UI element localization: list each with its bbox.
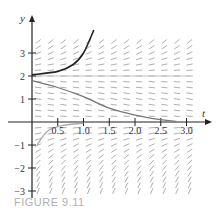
slope-segment [161, 104, 167, 105]
slope-segment [36, 39, 41, 43]
t-axis-arrow-icon [205, 119, 212, 125]
slope-segment [187, 46, 192, 49]
slope-segment [161, 144, 167, 147]
slope-segment [163, 171, 167, 176]
slope-segment [174, 104, 180, 105]
slope-segment [98, 93, 104, 94]
slope-segment [60, 99, 66, 100]
slope-segment [48, 46, 53, 49]
slope-segment [123, 93, 129, 94]
slope-segment [149, 104, 155, 105]
slope-segment [111, 70, 117, 71]
slope-segment [174, 87, 180, 88]
slope-segment [123, 70, 129, 71]
slope-segment [87, 166, 91, 171]
x-tick-label: 2.5 [155, 125, 168, 136]
slope-segment [111, 93, 117, 94]
slope-segment [124, 52, 130, 55]
slope-segment [86, 64, 92, 65]
slope-segment [35, 58, 41, 60]
slope-segment [136, 87, 142, 88]
slope-segment [35, 46, 40, 49]
slope-segment [187, 58, 193, 60]
slope-segment [175, 171, 179, 176]
solution-curve [32, 81, 176, 122]
slope-segment [149, 70, 155, 71]
slope-segment [187, 39, 192, 43]
slope-segment [174, 46, 179, 49]
slope-segment [162, 149, 167, 152]
slope-segment [98, 87, 104, 88]
slope-segment [61, 166, 65, 171]
y-tick-label: 1 [20, 94, 25, 105]
slope-segment [136, 149, 141, 152]
slope-segment [175, 160, 179, 165]
slope-segment [111, 52, 117, 55]
slope-segment [86, 58, 92, 60]
slope-segment [98, 110, 104, 111]
slope-segment [187, 149, 192, 152]
slope-segment [99, 154, 104, 158]
slope-segment [188, 182, 191, 188]
slope-segment [111, 99, 117, 100]
slope-segment [49, 177, 52, 183]
slope-segment [136, 46, 141, 49]
slope-segment [123, 64, 129, 65]
slope-segment [61, 46, 66, 49]
slope-segment [100, 182, 103, 188]
slope-segment [48, 154, 53, 158]
slope-segment [74, 154, 79, 158]
slope-segment [174, 154, 179, 158]
slope-segment [87, 177, 90, 183]
slope-segment [62, 177, 65, 183]
slope-segment [35, 104, 41, 105]
slope-segment [73, 110, 79, 111]
slope-segment [123, 87, 129, 88]
slope-segment [48, 104, 54, 105]
slope-segment [60, 138, 66, 140]
slope-segment [163, 188, 166, 194]
slope-segment [163, 177, 166, 183]
slope-segment [98, 70, 104, 71]
slope-segment [48, 93, 54, 94]
slope-segment [99, 171, 103, 176]
slope-segment [188, 188, 191, 194]
slope-segment [111, 46, 116, 49]
slope-segment [98, 144, 104, 147]
slope-segment [188, 177, 191, 183]
slope-segment [87, 171, 91, 176]
slope-segment [61, 39, 66, 43]
slope-segment [125, 177, 128, 183]
slope-segment [50, 188, 53, 194]
slope-segment [48, 149, 53, 152]
slope-segment [149, 138, 155, 140]
slope-segment [161, 138, 167, 140]
slope-segment [48, 64, 54, 65]
slope-segment [37, 182, 40, 188]
slope-segment [74, 160, 78, 165]
slope-segment [149, 87, 155, 88]
y-tick-label: 2 [20, 71, 25, 82]
slope-segment [161, 52, 167, 55]
slope-segment [99, 160, 103, 165]
slope-segment [149, 58, 155, 60]
slope-field-plot: 0.51.01.52.02.53.0321−1−2−3ty [0, 0, 220, 216]
slope-segment [174, 99, 180, 100]
slope-segment [187, 144, 193, 147]
slope-segment [149, 99, 155, 100]
slope-segment [125, 188, 128, 194]
slope-segment [86, 149, 91, 152]
slope-segment [136, 110, 142, 111]
slope-segment [73, 144, 79, 147]
slope-segment [124, 149, 129, 152]
slope-segment [186, 104, 192, 105]
axes [8, 15, 212, 198]
slope-segment [73, 104, 79, 105]
slope-segment [149, 52, 155, 55]
slope-segment [176, 188, 179, 194]
slope-segment [112, 182, 115, 188]
slope-segment [85, 87, 91, 88]
slope-segment [162, 154, 167, 158]
slope-segment [187, 154, 192, 158]
slope-segment [111, 58, 117, 60]
